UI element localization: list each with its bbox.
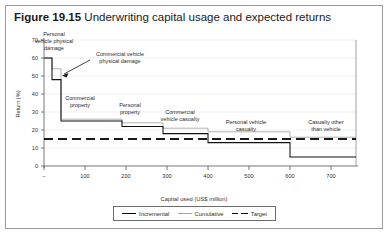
x-tick-700: 700: [326, 173, 335, 179]
ann-pvc-line2: casualty: [236, 126, 256, 132]
legend-label-incremental: Incremental: [139, 211, 169, 217]
x-axis: – 100 200 300 400 500 600 700: [42, 166, 358, 179]
ann-cp-line2: property: [70, 102, 90, 108]
ann-cotv-line1: Casualty other: [308, 119, 344, 125]
ann-cp-line1: Commercial: [65, 95, 94, 101]
annotation-casualty-other-than-vehicle: Casualty other than vehicle: [308, 119, 344, 132]
ann-pp-line1: Personal: [119, 102, 141, 108]
legend-label-target: Target: [251, 211, 267, 217]
ann-cvc-line1: Commercial: [165, 109, 194, 115]
y-axis-title: Return (%): [15, 90, 21, 117]
x-tick-300: 300: [162, 173, 171, 179]
annotation-personal-property: Personal property: [119, 102, 141, 115]
annotation-personal-vehicle-physical-damage: Personal vehicle physical damage: [35, 32, 74, 51]
figure-caption: Underwriting capital usage and expected …: [84, 11, 331, 23]
y-tick-40: 40: [32, 91, 38, 97]
y-axis: 70 60 50 40 30 20 10 0 Return (%): [15, 37, 44, 169]
legend-label-cumulative: Cumulative: [195, 211, 224, 217]
y-tick-0: 0: [35, 163, 38, 169]
x-tick-200: 200: [121, 173, 130, 179]
figure-title: Figure 19.15 Underwriting capital usage …: [14, 11, 374, 27]
step-chart: 70 60 50 40 30 20 10 0 Return (%): [8, 32, 380, 192]
y-tick-60: 60: [32, 55, 38, 61]
x-tick-0: –: [42, 173, 46, 179]
ann-cotv-line2: than vehicle: [311, 126, 340, 132]
ann-cvpd-line1: Commercial vehicle: [96, 51, 144, 57]
legend-swatch-target-icon: [232, 213, 248, 215]
y-tick-10: 10: [32, 145, 38, 151]
x-tick-500: 500: [244, 173, 253, 179]
x-axis-title: Capital used (US$ million): [0, 196, 388, 202]
ann-pvc-line1: Personal vehicle: [226, 119, 266, 125]
figure-number: Figure 19.15: [14, 11, 81, 23]
plot-area: 70 60 50 40 30 20 10 0 Return (%): [8, 32, 380, 192]
legend-item-cumulative[interactable]: Cumulative: [178, 211, 224, 217]
chart-legend: Incremental Cumulative Target: [113, 206, 276, 221]
ann-pvpd-line2: vehicle physical: [35, 38, 74, 44]
y-tick-50: 50: [32, 73, 38, 79]
annotation-commercial-property: Commercial property: [65, 95, 94, 108]
legend-swatch-incremental-icon: [122, 213, 136, 214]
ann-cvc-line2: vehicle casualty: [161, 116, 200, 122]
y-tick-20: 20: [32, 127, 38, 133]
ann-pvpd-line3: damage: [44, 45, 64, 51]
y-tick-30: 30: [32, 109, 38, 115]
x-tick-600: 600: [285, 173, 294, 179]
x-tick-100: 100: [80, 173, 89, 179]
gridlines: [44, 40, 356, 148]
ann-pp-line2: property: [120, 109, 140, 115]
x-tick-400: 400: [203, 173, 212, 179]
legend-item-target[interactable]: Target: [232, 211, 267, 217]
series-incremental: [44, 58, 356, 157]
ann-pvpd-line1: Personal: [43, 32, 65, 37]
legend-swatch-cumulative-icon: [178, 213, 192, 214]
annotation-commercial-vehicle-physical-damage: Commercial vehicle physical damage: [62, 51, 144, 78]
ann-cvpd-line2: physical damage: [99, 58, 140, 64]
annotation-arrow-line: [64, 60, 90, 74]
legend-item-incremental[interactable]: Incremental: [122, 211, 169, 217]
annotation-commercial-vehicle-casualty: Commercial vehicle casualty: [161, 109, 200, 122]
figure-container: Figure 19.15 Underwriting capital usage …: [0, 0, 388, 238]
